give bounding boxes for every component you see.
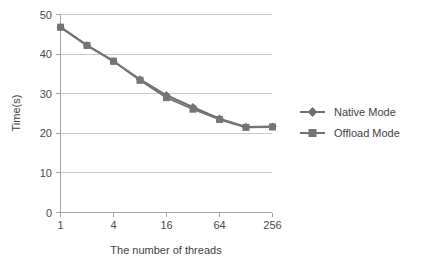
data-point-square [137, 77, 143, 83]
y-axis-label-30: 30 [40, 88, 52, 100]
line-chart: 50 40 30 20 10 0 1 4 16 64 256 The numbe… [0, 0, 425, 271]
data-point-square [270, 124, 276, 130]
y-axis-title: Time(s) [10, 95, 22, 132]
data-point-square [111, 58, 117, 64]
y-axis-label-50: 50 [40, 9, 52, 21]
x-axis-title: The number of threads [110, 244, 222, 256]
y-axis-label-0: 0 [46, 207, 52, 219]
x-axis-label-1: 1 [57, 219, 63, 231]
x-axis-label-256: 256 [263, 219, 281, 231]
data-point-square [58, 24, 64, 30]
data-point-square [243, 124, 249, 130]
data-point-square [164, 95, 170, 101]
legend-label-offload: Offload Mode [334, 127, 400, 139]
x-axis-label-4: 4 [110, 219, 116, 231]
legend-label-native: Native Mode [334, 106, 396, 118]
x-axis-label-16: 16 [160, 219, 172, 231]
data-point-square [84, 42, 90, 48]
y-axis-label-40: 40 [40, 48, 52, 60]
x-axis-label-64: 64 [213, 219, 225, 231]
legend-square-marker-icon [309, 130, 316, 137]
data-point-square [190, 106, 196, 112]
data-point-square [217, 116, 223, 122]
chart-container: 50 40 30 20 10 0 1 4 16 64 256 The numbe… [0, 0, 425, 271]
y-axis-label-10: 10 [40, 167, 52, 179]
y-axis-label-20: 20 [40, 127, 52, 139]
